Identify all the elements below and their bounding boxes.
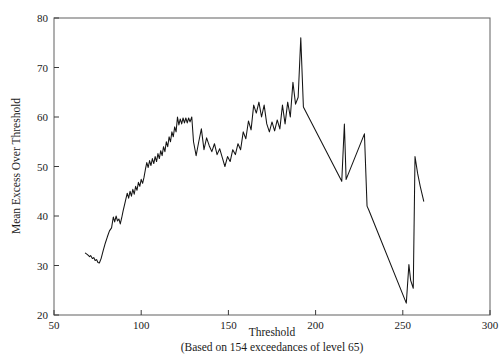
y-tick-label: 50 xyxy=(37,161,49,173)
mean-excess-plot-figure: 20304050607080 50100150200250300 Thresho… xyxy=(0,0,500,359)
x-tick-label: 150 xyxy=(220,319,237,331)
y-tick-label: 70 xyxy=(37,62,49,74)
x-tick-label: 100 xyxy=(133,319,150,331)
x-tick-label: 50 xyxy=(49,319,61,331)
x-axis-ticks xyxy=(54,310,490,315)
x-tick-label: 200 xyxy=(307,319,324,331)
y-tick-label: 60 xyxy=(37,111,49,123)
x-tick-label: 300 xyxy=(482,319,499,331)
plot-frame xyxy=(54,18,490,315)
chart-canvas: 20304050607080 50100150200250300 Thresho… xyxy=(0,0,500,359)
mean-excess-curve xyxy=(85,38,423,303)
chart-caption: (Based on 154 exceedances of level 65) xyxy=(181,341,364,354)
y-axis-ticks xyxy=(54,18,59,315)
y-axis-title: Mean Excess Over Threshold xyxy=(10,98,22,234)
axes-rectangle xyxy=(54,18,490,315)
y-tick-label: 30 xyxy=(37,260,49,272)
y-tick-label: 20 xyxy=(37,309,49,321)
y-tick-label: 40 xyxy=(37,210,49,222)
x-axis-title: Threshold xyxy=(249,326,296,338)
y-tick-label: 80 xyxy=(37,12,49,24)
y-axis-tick-labels: 20304050607080 xyxy=(37,12,49,321)
x-tick-label: 250 xyxy=(395,319,412,331)
